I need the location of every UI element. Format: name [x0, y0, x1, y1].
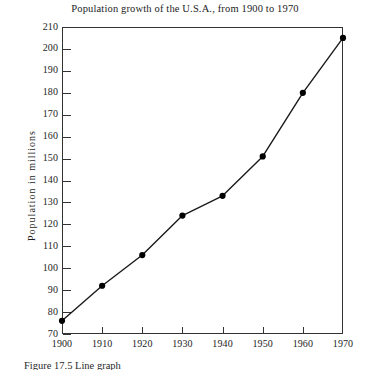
plot-area: [62, 27, 343, 334]
y-axis-tick-label: 110: [24, 240, 58, 251]
data-point-marker: [179, 212, 185, 218]
y-axis-tick-label: 170: [24, 108, 58, 119]
y-axis-tick-label: 150: [24, 152, 58, 163]
x-axis-tick-label: 1950: [241, 338, 285, 349]
figure-caption: Figure 17.5 Line graph: [24, 360, 121, 370]
y-axis-tick-label: 70: [24, 328, 58, 339]
data-point-marker: [340, 35, 346, 41]
x-axis-tick-label: 1960: [281, 338, 325, 349]
y-axis-tick-label: 200: [24, 42, 58, 53]
y-axis-tick-label: 120: [24, 218, 58, 229]
data-point-marker: [260, 153, 266, 159]
data-marker-group: [59, 35, 346, 324]
y-axis-tick-label: 190: [24, 64, 58, 75]
x-axis-tick-label: 1910: [80, 338, 124, 349]
data-point-marker: [219, 193, 225, 199]
y-axis-tick-label: 210: [24, 21, 58, 32]
data-line: [62, 38, 343, 321]
data-point-marker: [300, 90, 306, 96]
y-axis-tick-label: 100: [24, 262, 58, 273]
data-point-marker: [59, 318, 65, 324]
x-axis-tick-label: 1970: [321, 338, 365, 349]
chart-title: Population growth of the U.S.A., from 19…: [0, 3, 370, 14]
y-axis-tick-label: 160: [24, 130, 58, 141]
y-axis-tick-mark: [63, 334, 71, 335]
y-axis-tick-label: 180: [24, 86, 58, 97]
data-point-marker: [99, 283, 105, 289]
x-axis-tick-label: 1920: [120, 338, 164, 349]
y-axis-tick-label: 80: [24, 306, 58, 317]
y-axis-tick-label: 90: [24, 284, 58, 295]
x-axis-tick-label: 1930: [160, 338, 204, 349]
x-axis-tick-label: 1900: [40, 338, 84, 349]
y-axis-tick-label: 140: [24, 174, 58, 185]
data-point-marker: [139, 252, 145, 258]
y-axis-tick-label: 130: [24, 196, 58, 207]
figure-container: Population growth of the U.S.A., from 19…: [0, 0, 370, 370]
x-axis-tick-label: 1940: [201, 338, 245, 349]
